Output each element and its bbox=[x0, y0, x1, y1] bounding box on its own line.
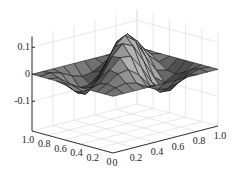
x-tick-label: 0.8 bbox=[193, 135, 206, 146]
x-tick-label: 0 bbox=[113, 157, 118, 168]
x-tick-label: 1.0 bbox=[214, 130, 227, 141]
y-tick-label: 0.8 bbox=[38, 138, 51, 149]
z-tick-label: -0.1 bbox=[14, 95, 30, 106]
x-tick-label: 0.2 bbox=[130, 152, 143, 163]
surface-mesh bbox=[32, 34, 218, 96]
x-tick-label: 0.6 bbox=[172, 141, 185, 152]
y-tick-label: 1.0 bbox=[22, 134, 35, 145]
x-tick-label: 0.4 bbox=[151, 146, 164, 157]
y-tick-label: 0 bbox=[107, 156, 112, 167]
z-tick-label: 0.1 bbox=[18, 41, 31, 52]
surface-plot: -0.100.100.20.40.60.81.000.20.40.60.81.0 bbox=[0, 0, 236, 170]
y-tick-label: 0.2 bbox=[87, 152, 100, 163]
y-tick-label: 0.6 bbox=[54, 143, 67, 154]
y-tick-label: 0.4 bbox=[70, 147, 83, 158]
z-tick-label: 0 bbox=[25, 68, 30, 79]
